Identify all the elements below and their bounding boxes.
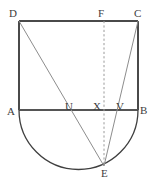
geometry-canvas	[0, 0, 156, 190]
point-label-C: C	[134, 8, 141, 19]
semicircle-on-AB	[19, 110, 138, 170]
point-label-U: U	[65, 101, 73, 112]
point-label-X: X	[93, 101, 101, 112]
point-label-B: B	[140, 105, 147, 116]
segment-CE	[104, 21, 138, 166]
point-label-E: E	[101, 168, 108, 179]
point-label-A: A	[7, 106, 15, 117]
segment-DE	[19, 21, 104, 166]
point-label-F: F	[98, 8, 104, 19]
geometry-figure: D F C A U X V B E	[0, 0, 156, 190]
point-label-V: V	[116, 101, 124, 112]
point-label-D: D	[9, 8, 17, 19]
